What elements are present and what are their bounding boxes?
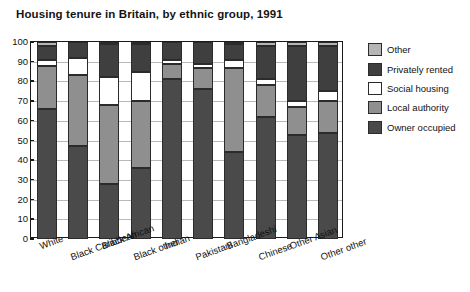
bar-group[interactable] xyxy=(131,42,151,237)
y-axis: 0102030405060708090100 xyxy=(0,41,28,238)
bar-segment[interactable] xyxy=(256,117,276,239)
x-tick-label: Chinese xyxy=(257,240,294,262)
legend-label: Other xyxy=(387,44,411,55)
bar-group[interactable] xyxy=(99,42,119,237)
bar-segment[interactable] xyxy=(224,44,244,60)
bar-segment[interactable] xyxy=(131,42,151,44)
bar-group[interactable] xyxy=(193,42,213,237)
bar-segment[interactable] xyxy=(318,91,338,101)
bar-group[interactable] xyxy=(287,42,307,237)
bar-segment[interactable] xyxy=(131,44,151,72)
x-axis: WhiteBlack CaribbeanBlack AfricanBlack o… xyxy=(0,238,470,292)
bar-segment[interactable] xyxy=(68,58,88,76)
y-tick-label: 80 xyxy=(2,75,28,86)
y-tick-label: 90 xyxy=(2,55,28,66)
bar-segment[interactable] xyxy=(162,42,182,60)
y-tick-label: 50 xyxy=(2,134,28,145)
bar-segment[interactable] xyxy=(131,101,151,168)
stacked-bar[interactable] xyxy=(256,42,276,237)
bar-segment[interactable] xyxy=(256,85,276,117)
bar-segment[interactable] xyxy=(99,42,119,44)
bar-group[interactable] xyxy=(318,42,338,237)
stacked-bar[interactable] xyxy=(68,42,88,237)
legend-item[interactable]: Social housing xyxy=(368,79,470,98)
bar-segment[interactable] xyxy=(256,79,276,85)
stacked-bar[interactable] xyxy=(99,42,119,237)
bar-segment[interactable] xyxy=(287,107,307,135)
bar-segment[interactable] xyxy=(162,60,182,64)
bar-group[interactable] xyxy=(68,42,88,237)
bar-segment[interactable] xyxy=(99,44,119,77)
stacked-bar[interactable] xyxy=(193,42,213,237)
bar-segment[interactable] xyxy=(318,42,338,46)
bar-segment[interactable] xyxy=(37,66,57,109)
bar-group[interactable] xyxy=(256,42,276,237)
bar-segment[interactable] xyxy=(287,42,307,46)
stacked-bar[interactable] xyxy=(318,42,338,237)
chart-legend: OtherPrivately rentedSocial housingLocal… xyxy=(368,40,470,137)
bar-segment[interactable] xyxy=(193,64,213,68)
bar-group[interactable] xyxy=(37,42,57,237)
bar-segment[interactable] xyxy=(318,133,338,239)
legend-label: Social housing xyxy=(387,83,449,94)
stacked-bar[interactable] xyxy=(224,42,244,237)
bar-segment[interactable] xyxy=(318,101,338,133)
bar-segment[interactable] xyxy=(37,42,57,46)
legend-item[interactable]: Other xyxy=(368,40,470,59)
legend-item[interactable]: Local authority xyxy=(368,98,470,117)
legend-label: Privately rented xyxy=(387,64,453,75)
bar-segment[interactable] xyxy=(193,89,213,239)
bar-segment[interactable] xyxy=(256,46,276,79)
bar-segment[interactable] xyxy=(68,75,88,146)
legend-swatch xyxy=(368,82,382,95)
bar-segment[interactable] xyxy=(37,109,57,239)
bar-segment[interactable] xyxy=(37,46,57,60)
bar-segment[interactable] xyxy=(99,105,119,184)
y-tick-label: 40 xyxy=(2,154,28,165)
bar-segment[interactable] xyxy=(193,42,213,64)
bar-group[interactable] xyxy=(224,42,244,237)
bar-segment[interactable] xyxy=(256,42,276,46)
bar-segment[interactable] xyxy=(287,135,307,239)
legend-swatch xyxy=(368,101,382,114)
chart-figure: Housing tenure in Britain, by ethnic gro… xyxy=(0,0,470,292)
y-tick-mark xyxy=(30,41,34,43)
bar-segment[interactable] xyxy=(99,184,119,239)
legend-item[interactable]: Owner occupied xyxy=(368,118,470,137)
legend-swatch xyxy=(368,121,382,134)
y-tick-label: 60 xyxy=(2,114,28,125)
x-tick-label: Other other xyxy=(319,236,368,263)
bar-group[interactable] xyxy=(162,42,182,237)
bar-segment[interactable] xyxy=(224,42,244,44)
bar-segment[interactable] xyxy=(162,64,182,80)
plot-inner xyxy=(31,42,342,237)
stacked-bar[interactable] xyxy=(287,42,307,237)
bar-segment[interactable] xyxy=(162,79,182,239)
stacked-bar[interactable] xyxy=(131,42,151,237)
bar-segment[interactable] xyxy=(193,68,213,90)
legend-swatch xyxy=(368,63,382,76)
bar-segment[interactable] xyxy=(37,60,57,66)
bar-segment[interactable] xyxy=(99,77,119,105)
bar-segment[interactable] xyxy=(131,72,151,102)
y-tick-mark xyxy=(30,179,34,181)
legend-item[interactable]: Privately rented xyxy=(368,59,470,78)
y-tick-mark xyxy=(30,120,34,122)
bar-segment[interactable] xyxy=(318,46,338,91)
bar-segment[interactable] xyxy=(68,42,88,58)
y-tick-mark xyxy=(30,238,34,240)
bar-segment[interactable] xyxy=(287,101,307,107)
legend-label: Owner occupied xyxy=(387,122,456,133)
y-tick-mark xyxy=(30,100,34,102)
bar-segment[interactable] xyxy=(224,68,244,153)
bar-segment[interactable] xyxy=(287,46,307,101)
chart-title: Housing tenure in Britain, by ethnic gro… xyxy=(16,8,283,20)
bar-segment[interactable] xyxy=(224,60,244,68)
bar-segment[interactable] xyxy=(224,152,244,239)
stacked-bar[interactable] xyxy=(162,42,182,237)
y-tick-mark xyxy=(30,80,34,82)
stacked-bar[interactable] xyxy=(37,42,57,237)
plot-area xyxy=(30,41,343,238)
bar-segment[interactable] xyxy=(68,146,88,239)
y-tick-label: 70 xyxy=(2,95,28,106)
